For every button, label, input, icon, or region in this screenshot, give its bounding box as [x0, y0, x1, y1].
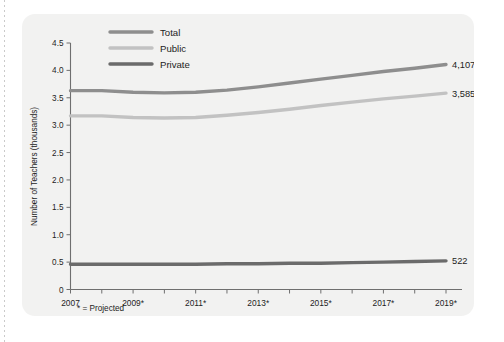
y-tick-label: 3.5 — [52, 94, 64, 103]
series-line-public — [71, 93, 447, 118]
y-axis-title: Number of Teachers (thousands) — [30, 107, 39, 226]
series-end-labels: 4,1073,585522 — [452, 60, 474, 266]
x-tick-label: 2017* — [372, 298, 395, 308]
chart-panel: Number of Teachers (thousands) 00.51.01.… — [22, 14, 474, 316]
y-tick-label: 2.0 — [52, 176, 64, 185]
y-tick-label: 2.5 — [52, 149, 64, 158]
chart-legend: TotalPublicPrivate — [110, 27, 190, 70]
y-axis-ticks: 00.51.01.52.02.53.03.54.04.5 — [52, 39, 70, 295]
y-tick-label: 0 — [59, 286, 64, 295]
plot-area: Number of Teachers (thousands) 00.51.01.… — [22, 14, 474, 316]
page-edge-dotted-rule — [4, 0, 5, 342]
footnote-projected: * = Projected — [77, 304, 125, 313]
y-tick-label: 0.5 — [52, 258, 64, 267]
series-lines — [71, 65, 447, 265]
x-tick-label: 2009* — [122, 298, 145, 308]
legend-label-total: Total — [160, 27, 180, 38]
series-line-total — [71, 65, 447, 93]
end-label-total: 4,107 — [452, 60, 474, 70]
legend-label-private: Private — [160, 59, 190, 70]
series-line-private — [71, 261, 447, 264]
x-tick-label: 2013* — [247, 298, 270, 308]
line-chart: Number of Teachers (thousands) 00.51.01.… — [22, 14, 474, 316]
end-label-private: 522 — [452, 256, 468, 266]
y-tick-label: 4.5 — [52, 39, 64, 48]
x-tick-label: 2015* — [310, 298, 333, 308]
y-tick-label: 3.0 — [52, 121, 64, 130]
y-tick-label: 4.0 — [52, 66, 64, 75]
x-tick-label: 2011* — [185, 298, 207, 308]
y-tick-label: 1.0 — [52, 231, 64, 240]
y-tick-label: 1.5 — [52, 203, 64, 212]
end-label-public: 3,585 — [452, 89, 474, 99]
legend-label-public: Public — [160, 43, 186, 54]
y-axis-title-text: Number of Teachers (thousands) — [30, 107, 39, 226]
x-tick-label: 2019* — [435, 298, 458, 308]
